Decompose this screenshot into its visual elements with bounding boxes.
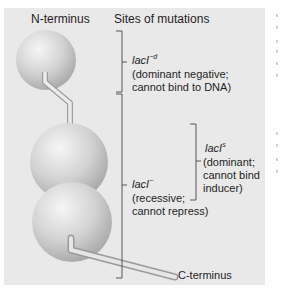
c-terminus-label: C-terminus: [178, 269, 232, 282]
gene-name: lacI: [132, 178, 149, 190]
lac-repressor-domain-diagram: [0, 0, 283, 298]
bleed-mark: [276, 14, 278, 17]
mutation-lacI-minus-desc-2: cannot repress): [132, 205, 208, 218]
bleed-mark: [276, 74, 278, 77]
bleed-mark: [276, 26, 278, 29]
gene-name: lacI: [205, 142, 222, 154]
mutation-lacI-d: lacI−d: [132, 54, 157, 67]
bleed-mark: [276, 62, 278, 65]
bleed-mark: [276, 158, 278, 161]
mutation-lacI-d-desc-1: (dominant negative;: [132, 68, 229, 81]
bleed-mark: [276, 170, 278, 173]
mutation-lacI-d-desc-2: cannot bind to DNA): [132, 81, 231, 94]
mutation-lacI-minus-desc-1: (recessive;: [132, 192, 185, 205]
n-terminus-label: N-terminus: [31, 13, 90, 26]
bleed-mark: [276, 40, 278, 43]
mutation-lacI-minus: lacI−: [132, 178, 153, 191]
allele-superscript: −: [149, 177, 153, 184]
mutation-lacI-s-desc-3: inducer): [203, 182, 243, 195]
mutation-lacI-s-desc-2: cannot bind: [203, 169, 260, 182]
sites-of-mutations-header: Sites of mutations: [114, 13, 209, 26]
bracket-lacI-minus: [116, 94, 127, 278]
mutation-lacI-s: lacIs: [205, 142, 226, 155]
bleed-mark: [276, 50, 278, 53]
bleed-mark: [276, 132, 278, 135]
mutation-lacI-s-desc-1: (dominant;: [203, 156, 255, 169]
bracket-lacI-s: [190, 124, 201, 200]
allele-superscript: −d: [149, 53, 157, 60]
bleed-mark: [276, 144, 278, 147]
allele-superscript: s: [222, 141, 226, 148]
bracket-lacI-d: [116, 31, 127, 92]
gene-name: lacI: [132, 54, 149, 66]
